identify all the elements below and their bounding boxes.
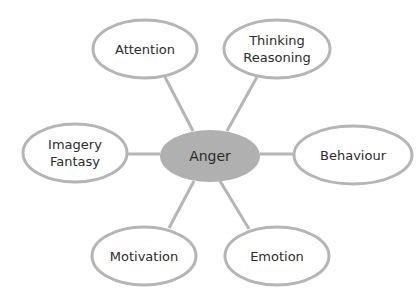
node-label: Motivation bbox=[110, 249, 178, 264]
node-attention: Attention bbox=[93, 20, 197, 78]
node-ellipse bbox=[224, 20, 330, 78]
connector-attention bbox=[165, 77, 193, 131]
node-motivation: Motivation bbox=[92, 227, 196, 285]
node-label: Reasoning bbox=[243, 50, 310, 65]
node-label: Fantasy bbox=[50, 154, 100, 169]
connector-thinking-reasoning bbox=[227, 77, 257, 131]
center-label: Anger bbox=[189, 148, 231, 164]
node-label: Attention bbox=[115, 42, 175, 57]
node-label: Imagery bbox=[48, 137, 102, 152]
connector-emotion bbox=[220, 181, 249, 229]
node-thinking-reasoning: ThinkingReasoning bbox=[224, 20, 330, 78]
center-node-anger: Anger bbox=[160, 130, 260, 182]
node-emotion: Emotion bbox=[225, 227, 329, 285]
node-ellipse bbox=[23, 124, 127, 182]
node-label: Thinking bbox=[248, 33, 305, 48]
node-label: Emotion bbox=[250, 249, 304, 264]
anger-mind-map: Anger AttentionThinkingReasoningImageryF… bbox=[0, 0, 417, 306]
connector-motivation bbox=[169, 181, 194, 228]
node-behaviour: Behaviour bbox=[294, 126, 412, 184]
node-imagery-fantasy: ImageryFantasy bbox=[23, 124, 127, 182]
node-label: Behaviour bbox=[320, 148, 387, 163]
